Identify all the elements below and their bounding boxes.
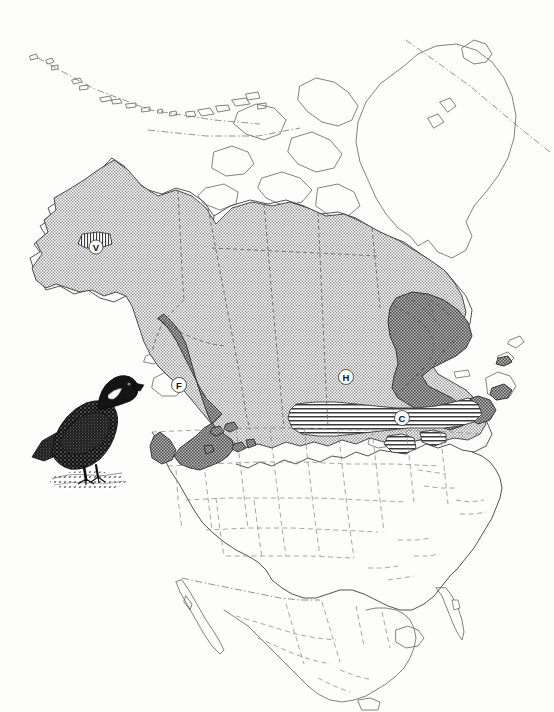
aleutian-islands xyxy=(30,54,266,117)
map-label-F: F xyxy=(172,378,187,393)
grouse-illustration-svg xyxy=(28,355,148,500)
greenland-outline xyxy=(356,40,516,258)
us-state-borders xyxy=(152,428,486,580)
map-label-H-text: H xyxy=(343,372,350,383)
grouse-illustration xyxy=(28,355,148,500)
boundary-dashdot-line xyxy=(38,40,550,152)
mexico-state-borders xyxy=(236,602,390,692)
map-label-C: C xyxy=(395,411,410,426)
map-label-H: H xyxy=(339,370,354,385)
grouse-pupil xyxy=(128,383,130,385)
map-label-V: V xyxy=(89,240,103,254)
map-label-C-text: C xyxy=(399,413,406,424)
range-map-figure: Spruce Grouse range map of North America xyxy=(0,0,554,712)
map-label-V-text: V xyxy=(93,242,100,253)
map-label-F-text: F xyxy=(176,380,182,391)
